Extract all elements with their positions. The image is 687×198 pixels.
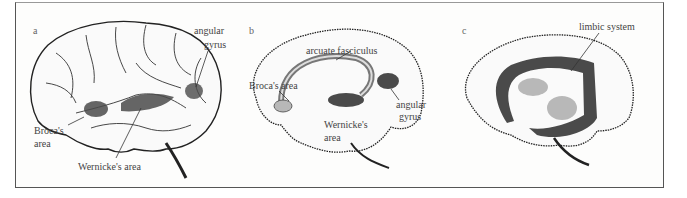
panel-b-connections: b arcuate fasciculus Broca's area angula…: [231, 3, 449, 187]
label-broca-area-a-2: area: [34, 138, 51, 149]
label-angular-gyrus-b: angular: [396, 99, 426, 110]
label-angular-gyrus-a: angular: [194, 25, 224, 36]
panel-c-limbic: c limbic system: [449, 3, 665, 187]
label-wernicke-area-a: Wernicke's area: [78, 161, 141, 172]
label-limbic-system: limbic system: [579, 21, 635, 32]
label-arcuate-fasciculus: arcuate fasciculus: [306, 45, 377, 56]
panel-a-lateral-brain: a angular gyrus Broca's area Wernicke's …: [16, 3, 231, 187]
label-wernicke-area-b-2: area: [324, 132, 341, 143]
label-broca-area-b: Broca's area: [249, 80, 298, 91]
figure-frame: a angular gyrus Broca's area Wernicke's …: [15, 2, 664, 188]
label-broca-area-a: Broca's: [34, 125, 64, 136]
label-angular-gyrus-b-2: gyrus: [399, 111, 421, 122]
label-angular-gyrus-a-2: gyrus: [204, 39, 226, 50]
label-wernicke-area-b: Wernicke's: [324, 119, 368, 130]
medial-connections-illustration: [231, 3, 449, 189]
